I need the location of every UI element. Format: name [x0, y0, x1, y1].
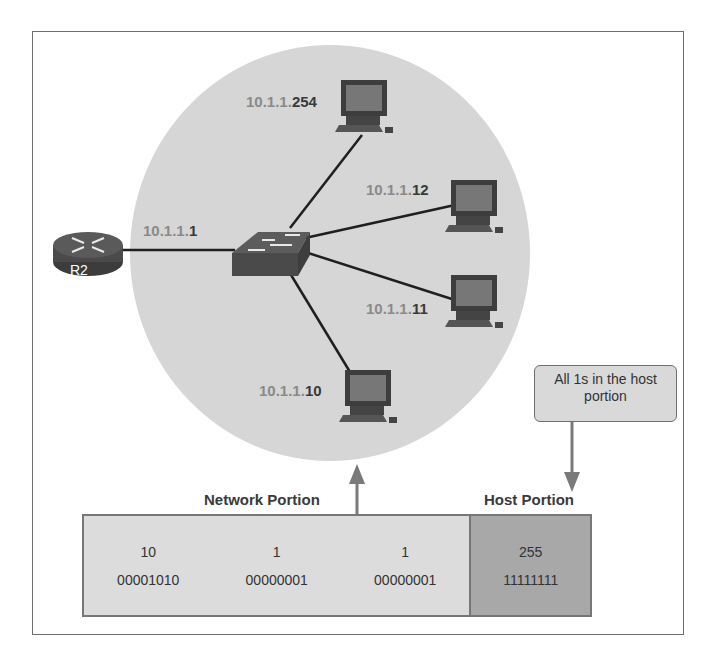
- host-arrow-icon: [564, 422, 580, 492]
- host-ip-label-254: 10.1.1.254: [246, 93, 317, 110]
- lan-circle: [130, 45, 530, 461]
- host-portion: 255 11111111: [469, 516, 590, 615]
- host-ip-label-10: 10.1.1.10: [259, 382, 322, 399]
- callout-box: All 1s in the host portion: [534, 365, 677, 422]
- router-ip-label: 10.1.1.1: [143, 222, 197, 239]
- router-name-label: R2: [70, 262, 88, 278]
- host-ip-label-11: 10.1.1.11: [366, 300, 428, 317]
- octet-decimal: 255: [519, 544, 542, 560]
- octet-binary: 11111111: [503, 572, 558, 588]
- octet-binary: 00000001: [246, 572, 308, 588]
- network-portion: 10 00001010 1 00000001 1 00000001: [84, 516, 469, 615]
- octet-decimal: 1: [401, 544, 409, 560]
- octet-binary: 00000001: [374, 572, 436, 588]
- octet-decimal: 1: [273, 544, 281, 560]
- octet-decimal: 10: [140, 544, 156, 560]
- address-box: 10 00001010 1 00000001 1 00000001 255 11…: [82, 514, 592, 617]
- router-icon: [53, 232, 123, 276]
- octet-3: 1 00000001: [341, 516, 469, 615]
- host-ip-label-12: 10.1.1.12: [366, 181, 429, 198]
- octet-2: 1 00000001: [212, 516, 340, 615]
- host-portion-label: Host Portion: [484, 491, 574, 508]
- octet-binary: 00001010: [117, 572, 179, 588]
- network-portion-label: Network Portion: [204, 491, 320, 508]
- octet-1: 10 00001010: [84, 516, 212, 615]
- network-arrow-icon: [349, 464, 365, 514]
